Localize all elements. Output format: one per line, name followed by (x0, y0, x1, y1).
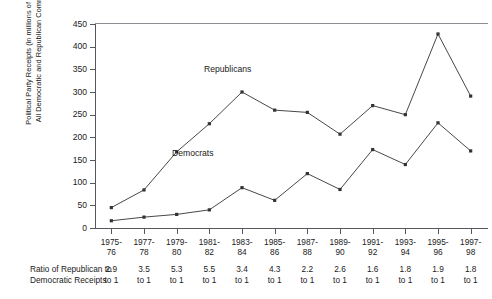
data-point-marker (208, 208, 211, 211)
data-point-marker (110, 206, 113, 209)
data-point-marker (436, 121, 439, 124)
series-line-republicans (111, 34, 470, 208)
ratio-unit: to 1 (452, 275, 490, 286)
data-point-marker (338, 133, 341, 136)
series-plot (0, 0, 492, 299)
ratio-value: 1.8 (452, 264, 490, 275)
series-line-democrats (111, 123, 470, 221)
data-point-marker (273, 109, 276, 112)
data-point-marker (404, 163, 407, 166)
chart-figure: Political Party Receipts (in millions of… (0, 0, 492, 299)
data-point-marker (240, 90, 243, 93)
data-point-marker (273, 199, 276, 202)
ratio-table: Ratio of Republican to Democratic Receip… (30, 264, 488, 294)
data-point-marker (371, 104, 374, 107)
data-point-marker (404, 113, 407, 116)
data-point-marker (338, 188, 341, 191)
data-point-marker (436, 32, 439, 35)
data-point-marker (371, 148, 374, 151)
series-label-republicans: Republicans (204, 64, 251, 74)
data-point-marker (110, 219, 113, 222)
data-point-marker (208, 122, 211, 125)
data-point-marker (306, 172, 309, 175)
data-point-marker (469, 94, 472, 97)
data-point-marker (306, 111, 309, 114)
data-point-marker (175, 213, 178, 216)
ratio-cell: 1.8to 1 (452, 264, 490, 286)
data-point-marker (142, 216, 145, 219)
data-point-marker (469, 149, 472, 152)
series-label-democrats: Democrats (172, 148, 214, 158)
data-point-marker (142, 188, 145, 191)
data-point-marker (240, 186, 243, 189)
